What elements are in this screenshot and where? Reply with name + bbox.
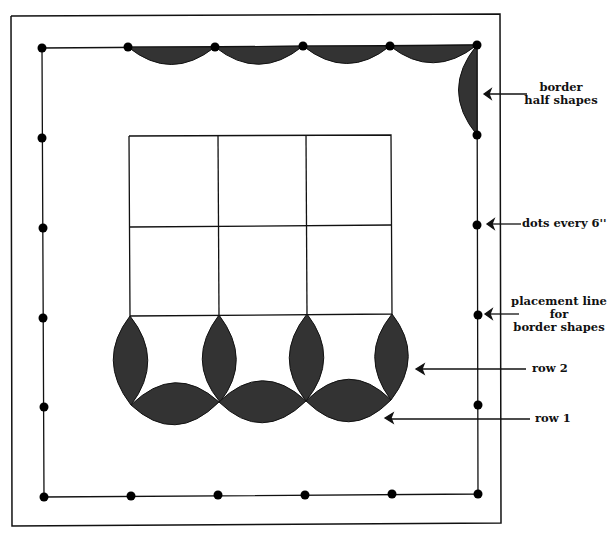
placement-line xyxy=(42,45,478,497)
label-border-half-shapes: border half shapes xyxy=(520,81,602,107)
label-row-2: row 2 xyxy=(532,362,568,375)
arrows xyxy=(385,89,530,423)
dots xyxy=(38,41,483,502)
quilt-border-diagram: border half shapes dots every 6'' placem… xyxy=(0,0,613,538)
row-1-shapes xyxy=(131,379,391,425)
outer-frame xyxy=(12,15,434,108)
outer-frame xyxy=(11,14,501,526)
label-line: row 2 xyxy=(532,361,568,375)
label-dots-every: dots every 6'' xyxy=(522,217,607,230)
border-half-shape-right xyxy=(459,45,478,135)
label-line: half shapes xyxy=(520,94,602,107)
label-line: dots every 6'' xyxy=(522,216,607,230)
label-line: row 1 xyxy=(535,411,571,425)
block-grid xyxy=(129,135,392,316)
label-line: border shapes xyxy=(510,321,608,334)
label-row-1: row 1 xyxy=(535,412,571,425)
label-placement-line: placement line for border shapes xyxy=(510,295,608,334)
